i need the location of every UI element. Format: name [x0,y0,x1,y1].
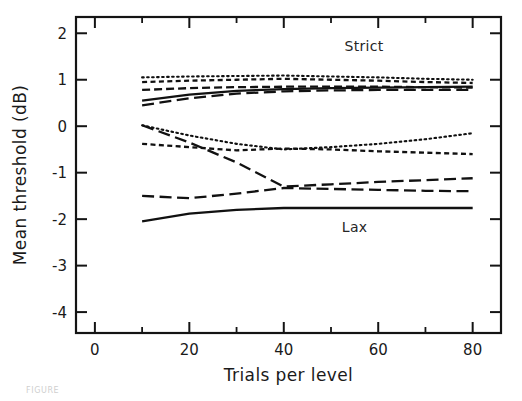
x-tick-label: 0 [90,341,100,359]
x-axis-title: Trials per level [223,365,353,385]
x-tick-label: 20 [180,341,199,359]
y-tick-label: -1 [52,164,67,182]
x-tick-label: 80 [463,341,482,359]
y-tick-label: -2 [52,211,67,229]
plot-box [76,17,501,333]
plot-frame [76,17,501,333]
series-line-mid-short-dash [142,144,473,154]
annotation-strict: Strict [345,38,384,54]
mean-threshold-line-chart: 210-1-2-3-4 020406080 StrictLax Mean thr… [0,0,522,401]
series-line-strict-dotted [142,76,473,80]
y-axis-tick-labels: 210-1-2-3-4 [52,25,67,322]
y-tick-label: 2 [57,25,67,43]
figure-caption-ghost: FIGURE [26,386,59,395]
chart-annotations: StrictLax [342,38,384,235]
data-series-group [142,76,473,222]
x-tick-label: 60 [369,341,388,359]
y-tick-label: 1 [57,71,67,89]
x-axis-ticks [95,17,473,333]
y-tick-label: -4 [52,304,67,322]
annotation-lax: Lax [342,219,368,235]
series-line-mid-dotted [142,125,473,149]
series-line-lax-solid [142,208,473,221]
series-line-lax-long-dash [142,188,473,198]
series-line-strict-long-dash [142,90,473,105]
figure-panel: 210-1-2-3-4 020406080 StrictLax Mean thr… [0,0,522,401]
series-line-mid-long-dash [142,125,473,186]
x-axis-tick-labels: 020406080 [90,341,482,359]
x-tick-label: 40 [274,341,293,359]
y-tick-label: -3 [52,257,67,275]
y-tick-label: 0 [57,118,67,136]
y-axis-title: Mean threshold (dB) [10,85,30,266]
